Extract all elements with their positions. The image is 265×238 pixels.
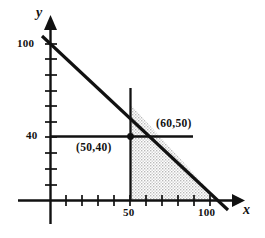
y-tick-label-100: 100	[17, 38, 34, 49]
y-axis-label: y	[36, 6, 43, 20]
y-axis-arrowhead	[44, 15, 57, 30]
coordinate-plane-svg	[0, 0, 265, 238]
x-axis-label: x	[243, 203, 250, 217]
y-tick-label-40: 40	[26, 130, 38, 141]
graph-figure: y x 100 40 50 100 (60,50) (50,40)	[0, 0, 265, 238]
x-tick-label-50: 50	[123, 207, 135, 218]
x-tick-label-100: 100	[198, 207, 215, 218]
point-marker-50-40	[127, 133, 134, 140]
point-label-60-50: (60,50)	[156, 118, 192, 130]
point-label-50-40: (50,40)	[76, 142, 112, 154]
